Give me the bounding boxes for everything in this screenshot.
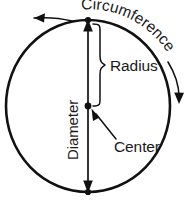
bottom-point-dot: [85, 189, 91, 195]
radius-label: Radius: [110, 57, 158, 74]
diagram-canvas: Circumference Diameter Radius: [0, 0, 190, 202]
circumference-label: Circumference: [81, 0, 179, 54]
circumference-arrow-left-icon: [34, 13, 72, 22]
diameter-label: Diameter: [64, 100, 81, 160]
circle-parts-diagram: Circumference Diameter Radius: [0, 0, 190, 202]
center-point-dot: [85, 103, 92, 110]
center-pointer-arrow-icon: [92, 109, 117, 140]
radius-brace: [93, 24, 105, 106]
center-label: Center: [114, 138, 160, 155]
top-point-dot: [85, 17, 91, 23]
